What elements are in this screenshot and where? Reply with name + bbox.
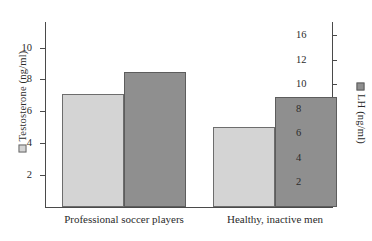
- lh-legend-swatch-icon: [357, 83, 365, 91]
- right-axis-title: LH (ng/ml): [356, 44, 367, 184]
- baseline-axis: [45, 207, 333, 208]
- category-label: Professional soccer players: [42, 213, 206, 225]
- left-tick: [40, 143, 45, 144]
- right-tick-label: 10: [296, 79, 322, 90]
- right-tick-label: 8: [296, 104, 322, 115]
- left-axis-title-text: Testosterone (ng/ml): [17, 50, 28, 141]
- right-tick-label: 2: [296, 177, 322, 188]
- left-tick: [40, 111, 45, 112]
- left-tick-label: 8: [6, 74, 32, 85]
- right-tick: [332, 35, 337, 36]
- left-tick: [40, 48, 45, 49]
- right-tick: [332, 60, 337, 61]
- bar-chart: Testosterone (ng/ml) LH (ng/ml) 246810 2…: [0, 0, 372, 241]
- bar: [62, 94, 124, 207]
- right-axis-title-text: LH (ng/ml): [356, 94, 367, 144]
- category-label: Healthy, inactive men: [193, 213, 357, 225]
- left-tick-label: 6: [6, 106, 32, 117]
- right-tick-label: 6: [296, 128, 322, 139]
- plot-area: [45, 22, 333, 208]
- left-tick-label: 2: [6, 170, 32, 181]
- bar: [124, 72, 186, 207]
- right-tick-label: 4: [296, 153, 322, 164]
- left-axis-line: [45, 22, 46, 208]
- left-tick: [40, 175, 45, 176]
- right-tick-label: 16: [296, 30, 322, 41]
- right-tick: [332, 84, 337, 85]
- left-tick: [40, 79, 45, 80]
- left-tick-label: 10: [6, 43, 32, 54]
- bar: [213, 127, 275, 207]
- left-tick-label: 4: [6, 138, 32, 149]
- right-tick-label: 12: [296, 55, 322, 66]
